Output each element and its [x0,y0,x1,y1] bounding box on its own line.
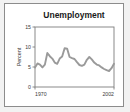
unemployment-series-line [35,48,114,71]
y-tick-label-10: 10 [25,44,31,50]
y-tick-label-15: 15 [25,24,31,30]
y-tick-label-5: 5 [28,64,31,70]
unemployment-line-chart: Unemployment Percent 15 10 5 0 1970 2002 [0,0,130,112]
y-tick-label-0: 0 [28,84,31,90]
chart-title: Unemployment [43,10,105,20]
figure-container: Unemployment Percent 15 10 5 0 1970 2002 [0,0,130,112]
x-tick-label-2002: 2002 [102,91,114,97]
y-axis-label: Percent [16,47,22,66]
x-tick-label-1970: 1970 [35,91,47,97]
